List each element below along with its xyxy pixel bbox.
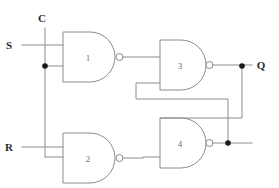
input-label-r: R (5, 141, 14, 153)
input-label-s: S (6, 39, 12, 51)
gate-3-body (160, 40, 206, 90)
circuit-diagram: C S R Q 1 2 3 4 (0, 0, 279, 188)
gate-1-label: 1 (86, 53, 91, 63)
gate-4-label: 4 (178, 139, 183, 149)
gate-1-output-bubble (116, 54, 123, 61)
junction-c-gate1 (42, 63, 48, 69)
gate-4-output-bubble (206, 140, 213, 147)
gate-3-output-bubble (206, 62, 213, 69)
junction-q-output (239, 63, 245, 69)
wire-feedback-gate4-to-gate3 (136, 83, 228, 143)
junction-gate4-output (225, 140, 231, 146)
wire-gate2-to-gate4 (123, 157, 160, 158)
gate-2-label: 2 (86, 154, 91, 164)
gate-2-output-bubble (116, 155, 123, 162)
output-label-q: Q (257, 59, 266, 71)
wire-feedback-q-to-gate4 (160, 66, 242, 118)
gate-3-label: 3 (178, 61, 183, 71)
gate-4-body (160, 118, 206, 168)
input-label-c: C (38, 12, 46, 24)
